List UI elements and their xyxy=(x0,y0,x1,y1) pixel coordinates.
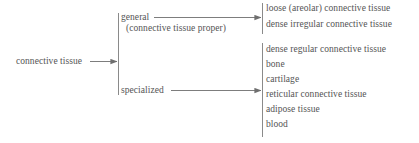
branch-general-sublabel: (connective tissue proper) xyxy=(126,23,226,34)
branch-general: general xyxy=(121,12,149,23)
bracket-general-leaves xyxy=(262,3,263,34)
branch-specialized: specialized xyxy=(121,85,164,96)
leaf-specialized-4: adipose tissue xyxy=(266,104,320,115)
leaf-specialized-2: cartilage xyxy=(266,74,299,85)
bracket-level1 xyxy=(118,13,119,95)
leaf-specialized-1: bone xyxy=(266,59,285,70)
connective-tissue-diagram: connective tissue general (connective ti… xyxy=(0,0,419,143)
bracket-specialized-leaves xyxy=(262,43,263,137)
leaf-specialized-3: reticular connective tissue xyxy=(266,89,367,100)
leaf-specialized-0: dense regular connective tissue xyxy=(266,44,386,55)
root-node-connective-tissue: connective tissue xyxy=(16,56,82,67)
leaf-general-0: loose (areolar) connective tissue xyxy=(266,3,390,14)
leaf-general-1: dense irregular connective tissue xyxy=(266,19,392,30)
leaf-specialized-5: blood xyxy=(266,119,288,130)
